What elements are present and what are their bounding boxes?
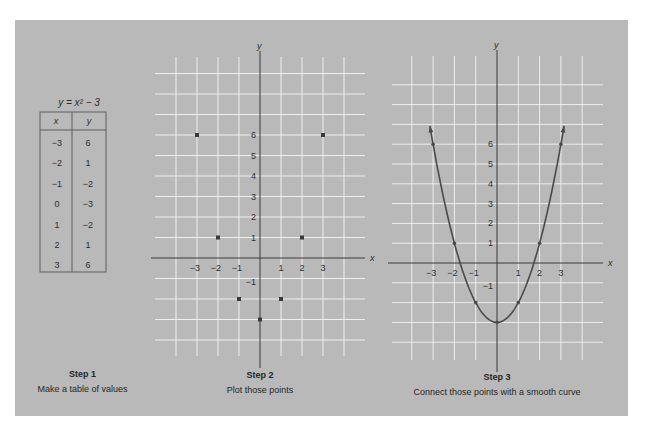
data-point <box>216 236 220 240</box>
step1-caption: Step 1 Make a table of values <box>20 369 145 394</box>
y-tick-label: 2 <box>488 218 493 228</box>
cell-x: 1 <box>54 220 59 230</box>
cell-x: 0 <box>54 199 59 209</box>
curve-point <box>517 301 521 305</box>
step2-caption: Step 2 Plot those points <box>200 370 320 395</box>
cell-y: 6 <box>85 260 90 270</box>
table-border <box>40 112 106 272</box>
curve-point <box>538 241 542 245</box>
table-row: 2 1 <box>54 240 90 250</box>
data-point <box>195 133 199 137</box>
y-tick-label: 6 <box>251 130 256 140</box>
table-header-x: x <box>53 116 59 126</box>
cell-y: 1 <box>85 240 90 250</box>
y-axis-label: y <box>256 41 262 51</box>
cell-x: −3 <box>52 138 62 148</box>
cell-x: −2 <box>52 158 62 168</box>
y-tick-label: 5 <box>251 151 256 161</box>
x-axis-label: x <box>607 258 613 268</box>
data-point <box>258 318 262 322</box>
x-tick-label: 1 <box>516 268 521 278</box>
curve-point <box>453 241 457 245</box>
table-title: y = x² − 3 <box>57 97 100 108</box>
step1-description: Make a table of values <box>37 384 127 394</box>
y-axis-label: y <box>493 40 499 50</box>
step2-plot: xy−3−2−1123−1123456 <box>151 41 375 368</box>
y-tick-label: 2 <box>251 212 256 222</box>
curve-point <box>495 321 499 325</box>
cell-y: 6 <box>85 138 90 148</box>
curve-point <box>431 142 435 146</box>
values-table: y = x² − 3 x y −3 6 −2 1 −1 −2 0 −3 1 −2… <box>40 97 106 272</box>
table-header-y: y <box>86 116 92 126</box>
table-row: 3 6 <box>54 260 90 270</box>
x-tick-label: −3 <box>426 268 436 278</box>
x-tick-label: 2 <box>299 263 304 273</box>
x-tick-label: 2 <box>537 268 542 278</box>
y-tick-label: 5 <box>488 159 493 169</box>
step3-label: Step 3 <box>400 372 594 382</box>
step2-description: Plot those points <box>227 385 294 395</box>
cell-y: 1 <box>85 158 90 168</box>
y-tick-label: 6 <box>488 139 493 149</box>
table-row: −1 −2 <box>52 179 93 189</box>
cell-x: −1 <box>52 179 62 189</box>
curve-point <box>474 301 478 305</box>
y-tick-label: 4 <box>251 171 256 181</box>
x-tick-label: −3 <box>190 263 200 273</box>
cell-y: −3 <box>83 199 93 209</box>
table-row: −2 1 <box>52 158 91 168</box>
step2-label: Step 2 <box>200 370 320 380</box>
curve-point <box>559 142 563 146</box>
cell-x: 3 <box>54 260 59 270</box>
table-row: 1 −2 <box>54 220 93 230</box>
y-tick-label: 1 <box>251 233 256 243</box>
y-tick-label: −1 <box>483 281 493 291</box>
data-point <box>279 297 283 301</box>
cell-x: 2 <box>54 240 59 250</box>
x-tick-label: 3 <box>558 268 563 278</box>
cell-y: −2 <box>83 179 93 189</box>
data-point <box>300 236 304 240</box>
x-tick-label: −2 <box>211 263 221 273</box>
x-tick-label: −1 <box>469 268 479 278</box>
y-tick-label: 3 <box>488 199 493 209</box>
step3-plot: xy−3−2−1123−1123456 <box>388 40 613 372</box>
x-tick-label: −2 <box>447 268 457 278</box>
data-point <box>321 133 325 137</box>
y-tick-label: 4 <box>488 179 493 189</box>
table-row: −3 6 <box>52 138 91 148</box>
cell-y: −2 <box>83 220 93 230</box>
y-tick-label: 3 <box>251 192 256 202</box>
step3-description: Connect those points with a smooth curve <box>413 387 580 397</box>
step1-label: Step 1 <box>20 369 145 379</box>
data-point <box>237 297 241 301</box>
y-tick-label: 1 <box>488 238 493 248</box>
step3-caption: Step 3 Connect those points with a smoot… <box>400 372 594 397</box>
table-row: 0 −3 <box>54 199 93 209</box>
x-axis-label: x <box>369 253 375 263</box>
x-tick-label: 1 <box>278 263 283 273</box>
y-tick-label: −1 <box>246 277 256 287</box>
x-tick-label: −1 <box>232 263 242 273</box>
x-tick-label: 3 <box>320 263 325 273</box>
